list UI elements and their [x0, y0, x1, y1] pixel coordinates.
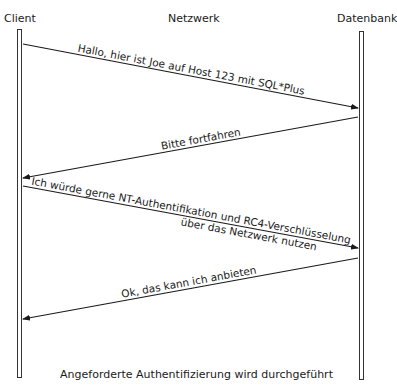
message-3: Ich würde gerne NT-Authentifikation und …: [23, 175, 358, 253]
message-1-label: Hallo, hier ist Joe auf Host 123 mit SQL…: [77, 42, 306, 97]
message-3-label-line1: Ich würde gerne NT-Authentifikation und …: [31, 175, 352, 246]
footer-note: Angeforderte Authentifizierung wird durc…: [0, 368, 393, 381]
message-2-label: Bitte fortfahren: [160, 125, 242, 151]
message-1: Hallo, hier ist Joe auf Host 123 mit SQL…: [23, 42, 358, 108]
message-2: Bitte fortfahren: [23, 117, 358, 178]
arrow-left-icon: [23, 258, 358, 319]
message-4-label: Ok, das kann ich anbieten: [120, 263, 257, 299]
arrow-left-icon: [23, 117, 358, 178]
message-4: Ok, das kann ich anbieten: [23, 258, 358, 319]
arrow-right-icon: [23, 44, 358, 108]
